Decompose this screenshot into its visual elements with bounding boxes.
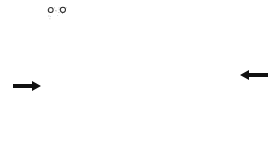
bubble (60, 7, 65, 12)
compression-arrows (13, 70, 268, 91)
bubble-raft-figure (0, 0, 277, 151)
hexagonal-lattice (48, 7, 65, 12)
left-arrow-icon (13, 81, 41, 91)
right-arrow-icon (240, 70, 268, 80)
speckle-texture (49, 7, 67, 19)
